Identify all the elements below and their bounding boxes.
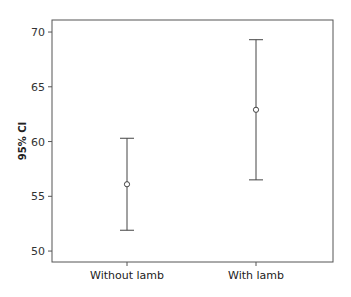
y-tick-label: 55 bbox=[31, 190, 45, 203]
x-tick-label: With lamb bbox=[228, 269, 284, 282]
plot-frame bbox=[52, 20, 333, 262]
error-bars bbox=[120, 40, 263, 231]
error-bar-with-lamb bbox=[249, 40, 263, 180]
y-tick-label: 60 bbox=[31, 136, 45, 149]
x-tick-label: Without lamb bbox=[90, 269, 164, 282]
y-tick-label: 65 bbox=[31, 81, 45, 94]
error-bar-chart: 5055606570 Without lambWith lamb 95% CI bbox=[0, 0, 351, 297]
mean-marker-icon bbox=[253, 107, 258, 112]
error-bar-without-lamb bbox=[120, 138, 134, 230]
y-tick-label: 70 bbox=[31, 26, 45, 39]
x-axis-ticks: Without lambWith lamb bbox=[90, 262, 284, 282]
mean-marker-icon bbox=[124, 182, 129, 187]
y-tick-label: 50 bbox=[31, 245, 45, 258]
y-axis-label: 95% CI bbox=[17, 122, 28, 160]
y-axis-ticks: 5055606570 bbox=[31, 26, 52, 258]
